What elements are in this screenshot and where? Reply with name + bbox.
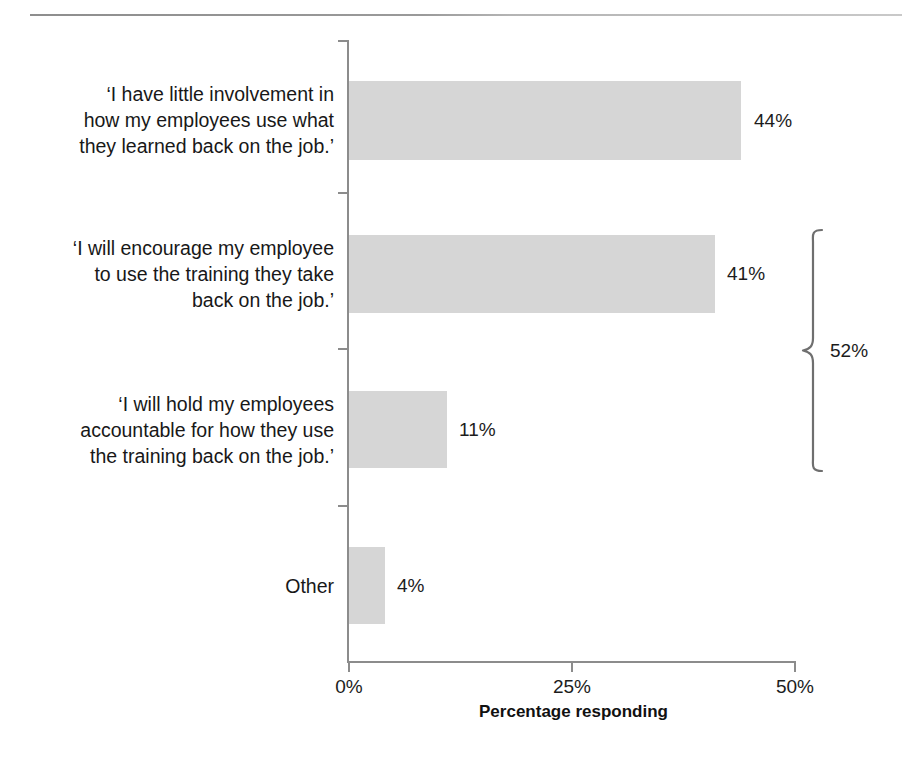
- curly-brace-icon: [800, 228, 830, 473]
- x-axis-tick-0: [348, 661, 350, 672]
- y-axis-tick-1: [338, 192, 348, 194]
- bar-chart: 44% 41% 11% 4% ‘I have little involvemen…: [0, 0, 904, 762]
- x-axis-tick-label-25: 25%: [553, 676, 591, 698]
- group-annotation: 52%: [800, 228, 904, 473]
- bar-category-1: [349, 81, 741, 160]
- bar-value-label-2: 41%: [727, 263, 765, 285]
- bar-category-4: [349, 547, 385, 624]
- group-annotation-value: 52%: [830, 340, 868, 362]
- x-axis-tick-label-0: 0%: [335, 676, 362, 698]
- category-label-2: ‘I will encourage my employee to use the…: [14, 235, 334, 313]
- x-axis-tick-label-50: 50%: [776, 676, 814, 698]
- y-axis-tick-2: [338, 348, 348, 350]
- bar-value-label-1: 44%: [754, 110, 792, 132]
- x-axis-tick-50: [794, 661, 796, 672]
- y-axis-tick-3: [338, 505, 348, 507]
- bar-category-2: [349, 235, 715, 313]
- bar-value-label-3: 11%: [459, 419, 496, 441]
- category-label-3: ‘I will hold my employees accountable fo…: [14, 391, 334, 469]
- x-axis-tick-25: [571, 661, 573, 672]
- category-label-4: Other: [14, 573, 334, 599]
- bar-value-label-4: 4%: [397, 575, 424, 597]
- category-label-1: ‘I have little involvement in how my emp…: [14, 81, 334, 159]
- bar-category-3: [349, 391, 447, 468]
- y-axis-tick-top: [338, 40, 348, 42]
- x-axis-title: Percentage responding: [349, 702, 798, 722]
